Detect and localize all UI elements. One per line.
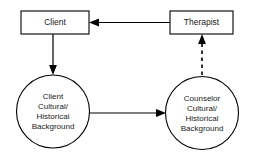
client-background-line-2: Cultural/ xyxy=(38,102,69,111)
connector-client-to-client-background-arrowhead xyxy=(49,65,57,75)
connector-client-background-to-counselor-background-arrowhead xyxy=(156,109,166,117)
connector-client-to-client-background xyxy=(49,34,57,75)
connector-counselor-background-to-therapist xyxy=(198,34,206,75)
node-client-box[interactable]: Client xyxy=(21,11,89,34)
counselor-background-line-4: Background xyxy=(181,124,224,133)
connector-counselor-background-to-therapist-arrowhead xyxy=(198,34,206,44)
connector-therapist-to-client xyxy=(89,19,170,27)
counselor-background-line-2: Cultural/ xyxy=(187,104,218,113)
connector-client-background-to-counselor-background xyxy=(88,109,166,117)
counselor-background-line-1: Counselor xyxy=(184,94,221,103)
client-box-label: Client xyxy=(44,17,66,27)
counselor-background-line-3: Historical xyxy=(186,114,219,123)
diagram-graphic: Client Therapist Client Cultural/ Histor… xyxy=(0,0,254,164)
node-therapist-box[interactable]: Therapist xyxy=(170,11,233,34)
diagram-canvas: Client Therapist Client Cultural/ Histor… xyxy=(0,0,254,164)
client-background-line-3: Historical xyxy=(37,112,70,121)
client-background-line-4: Background xyxy=(32,122,75,131)
node-client-background-circle[interactable]: Client Cultural/ Historical Background xyxy=(17,75,90,148)
therapist-box-label: Therapist xyxy=(184,17,220,27)
node-counselor-background-circle[interactable]: Counselor Cultural/ Historical Backgroun… xyxy=(166,77,239,150)
client-background-line-1: Client xyxy=(43,92,64,101)
connector-therapist-to-client-arrowhead xyxy=(89,19,99,27)
